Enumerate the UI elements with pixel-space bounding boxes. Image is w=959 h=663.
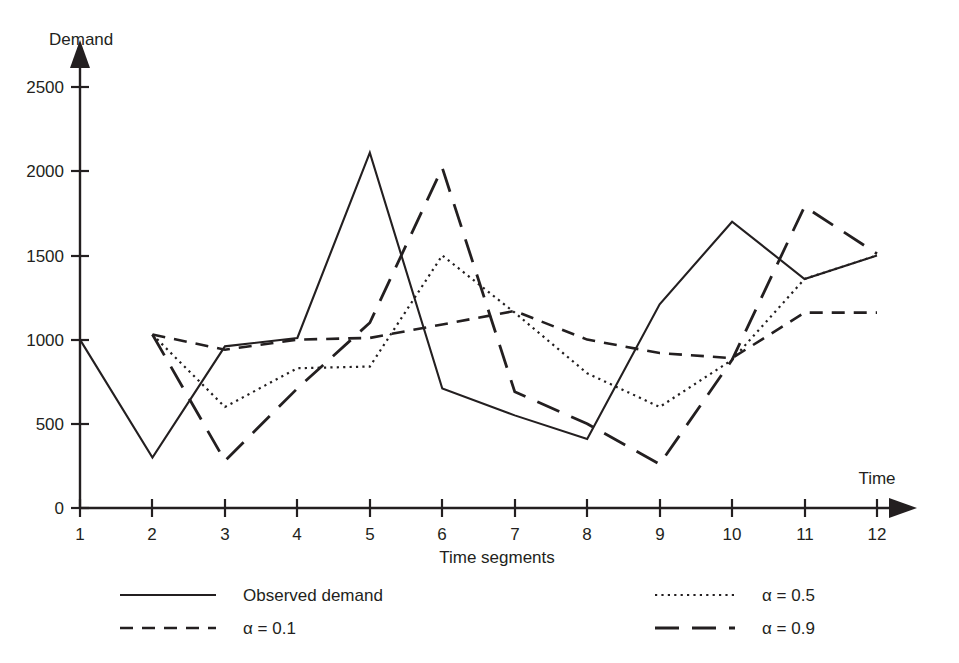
series-observed-demand bbox=[80, 153, 877, 458]
chart-legend: Observed demand α = 0.1 α = 0.5 α = 0.9 bbox=[120, 586, 815, 638]
y-tick-label-0: 0 bbox=[55, 499, 64, 518]
x-tick-label-5: 5 bbox=[365, 525, 374, 544]
x-tick-label-3: 3 bbox=[220, 525, 229, 544]
y-tick-label-1500: 1500 bbox=[26, 247, 64, 266]
legend-label-alpha-0-9: α = 0.9 bbox=[762, 619, 815, 638]
legend-label-alpha-0-5: α = 0.5 bbox=[762, 586, 815, 605]
x-tick-label-8: 8 bbox=[582, 525, 591, 544]
x-tick-label-6: 6 bbox=[437, 525, 446, 544]
x-tick-label-2: 2 bbox=[147, 525, 156, 544]
x-tick-label-1: 1 bbox=[75, 525, 84, 544]
x-tick-label-9: 9 bbox=[655, 525, 664, 544]
x-axis-title: Time segments bbox=[439, 548, 555, 567]
demand-forecast-chart: 0 500 1000 1500 2000 2500 Demand 1 2 3 4… bbox=[0, 0, 959, 663]
x-tick-label-4: 4 bbox=[292, 525, 301, 544]
legend-label-alpha-0-1: α = 0.1 bbox=[243, 619, 296, 638]
legend-label-observed-demand: Observed demand bbox=[243, 586, 383, 605]
series-alpha-0-1 bbox=[152, 311, 877, 358]
y-axis-name: Demand bbox=[49, 30, 113, 49]
y-tick-label-1000: 1000 bbox=[26, 331, 64, 350]
series-alpha-0-5 bbox=[152, 255, 877, 407]
y-tick-label-2500: 2500 bbox=[26, 78, 64, 97]
x-tick-label-10: 10 bbox=[723, 525, 742, 544]
y-tick-label-500: 500 bbox=[36, 415, 64, 434]
x-tick-label-11: 11 bbox=[796, 525, 814, 544]
series-alpha-0-9 bbox=[152, 168, 877, 464]
x-tick-label-7: 7 bbox=[510, 525, 519, 544]
x-tick-label-12: 12 bbox=[868, 525, 887, 544]
y-tick-label-2000: 2000 bbox=[26, 162, 64, 181]
x-axis-arrow-icon bbox=[889, 498, 917, 518]
chart-canvas: 0 500 1000 1500 2000 2500 Demand 1 2 3 4… bbox=[0, 0, 959, 663]
x-axis-name: Time bbox=[858, 469, 895, 488]
